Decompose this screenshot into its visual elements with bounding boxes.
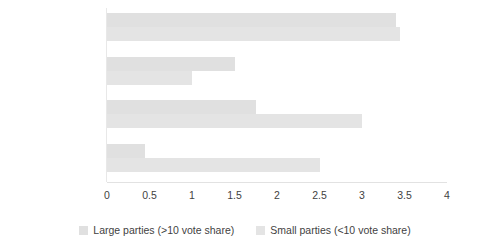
bar-large-parties [107, 57, 235, 71]
plot-area: Democracy European Union Nationalism Mul… [107, 8, 447, 182]
legend-entry-large-parties: Large parties (>10 vote share) [79, 224, 234, 237]
x-tick-label: 2 [274, 188, 280, 202]
bar-small-parties [107, 71, 192, 85]
legend-swatch-icon [79, 226, 88, 235]
legend-label: Large parties (>10 vote share) [93, 224, 234, 237]
bar-group: European Union [107, 52, 447, 96]
x-tick-label: 0 [104, 188, 110, 202]
bar-large-parties [107, 100, 256, 114]
bar-small-parties [107, 27, 400, 41]
bar-small-parties [107, 114, 362, 128]
bar-group: Democracy [107, 8, 447, 52]
x-tick-label: 0.5 [142, 188, 157, 202]
x-tick-label: 3.5 [397, 188, 412, 202]
x-tick-label: 2.5 [312, 188, 327, 202]
x-tick-label: 4 [444, 188, 450, 202]
chart-legend: Large parties (>10 vote share) Small par… [0, 224, 490, 237]
bar-small-parties [107, 158, 320, 172]
legend-label: Small parties (<10 vote share) [270, 224, 410, 237]
bar-chart: Democracy European Union Nationalism Mul… [0, 0, 490, 249]
x-tick-label: 1.5 [227, 188, 242, 202]
x-tick-label: 1 [189, 188, 195, 202]
bar-group: Multiculturalism [107, 139, 447, 183]
legend-swatch-icon [256, 226, 265, 235]
x-tick-label: 3 [359, 188, 365, 202]
x-axis-tick-labels: 0 0.5 1 1.5 2 2.5 3 3.5 4 [0, 188, 490, 204]
legend-entry-small-parties: Small parties (<10 vote share) [256, 224, 410, 237]
bar-large-parties [107, 144, 145, 158]
bar-group: Nationalism [107, 95, 447, 139]
x-axis-line [107, 182, 447, 183]
bar-large-parties [107, 13, 396, 27]
